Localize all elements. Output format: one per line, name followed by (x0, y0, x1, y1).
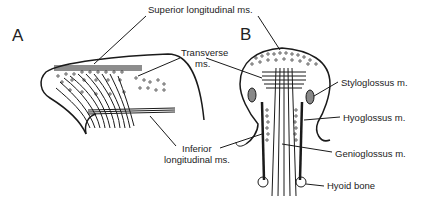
styloglossus-left (248, 88, 256, 102)
styloglossus-right (306, 90, 314, 104)
tongue-muscle-diagram (0, 0, 424, 204)
